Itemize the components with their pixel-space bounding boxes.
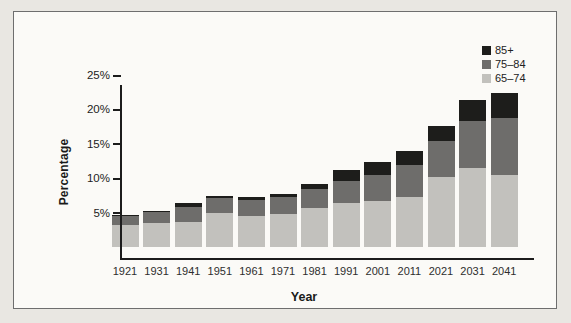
bar-2041-segment-85plus — [491, 93, 518, 118]
y-tick-10 — [113, 178, 121, 180]
bar-2021-segment-85plus — [428, 126, 455, 141]
x-tick-label-1931: 1931 — [140, 265, 174, 277]
scanned-page: 85+75–8465–74 19211931194119511961197119… — [0, 0, 571, 323]
bar-1961-segment-75-84 — [238, 200, 265, 216]
legend-swatch-icon — [482, 46, 491, 55]
bar-2031-segment-65-74 — [459, 168, 486, 247]
bar-1921-segment-85plus — [112, 215, 139, 216]
x-tick-label-2031: 2031 — [456, 265, 490, 277]
x-tick-label-1981: 1981 — [298, 265, 332, 277]
x-tick-label-2021: 2021 — [424, 265, 458, 277]
bar-1991-segment-85plus — [333, 170, 360, 181]
bar-2021-segment-75-84 — [428, 141, 455, 177]
bar-1961-segment-85plus — [238, 197, 265, 200]
bar-1991-segment-65-74 — [333, 203, 360, 248]
x-axis-title: Year — [259, 290, 349, 304]
legend-swatch-icon — [482, 60, 491, 69]
y-tick-label-15: 15% — [66, 138, 110, 151]
bar-1951-segment-75-84 — [206, 198, 233, 213]
bar-1981-segment-75-84 — [301, 189, 328, 208]
bar-1941-segment-75-84 — [175, 207, 202, 222]
legend: 85+75–8465–74 — [482, 44, 526, 86]
legend-item-75-84: 75–84 — [482, 58, 526, 71]
legend-swatch-icon — [482, 74, 491, 83]
bar-1921-segment-75-84 — [112, 216, 139, 225]
y-tick-25 — [113, 75, 121, 77]
bar-1941-segment-65-74 — [175, 222, 202, 247]
y-tick-label-25: 25% — [66, 69, 110, 82]
bar-2041-segment-75-84 — [491, 118, 518, 175]
bar-2011-segment-75-84 — [396, 165, 423, 197]
y-tick-15 — [113, 143, 121, 145]
x-tick-label-2011: 2011 — [392, 265, 426, 277]
bar-1971-segment-65-74 — [270, 214, 297, 248]
bar-2031-segment-75-84 — [459, 121, 486, 168]
x-tick-label-1921: 1921 — [108, 265, 142, 277]
y-tick-5 — [113, 212, 121, 214]
legend-item-85plus: 85+ — [482, 44, 526, 57]
x-axis-line — [120, 258, 534, 261]
bar-1951-segment-65-74 — [206, 213, 233, 247]
bar-1981-segment-85plus — [301, 184, 328, 190]
bar-1931-segment-85plus — [143, 211, 170, 212]
bar-2011-segment-65-74 — [396, 197, 423, 248]
bar-1931-segment-65-74 — [143, 223, 170, 248]
bar-1941-segment-85plus — [175, 203, 202, 206]
y-tick-label-5: 5% — [66, 207, 110, 220]
x-tick-label-2001: 2001 — [361, 265, 395, 277]
figure-box: 85+75–8465–74 19211931194119511961197119… — [13, 11, 557, 309]
bar-2011-segment-85plus — [396, 151, 423, 165]
bar-1921-segment-65-74 — [112, 225, 139, 248]
y-axis-line — [120, 85, 122, 259]
bar-2001-segment-65-74 — [364, 201, 391, 247]
bar-2021-segment-65-74 — [428, 177, 455, 247]
x-tick-label-2041: 2041 — [487, 265, 521, 277]
bar-1971-segment-75-84 — [270, 197, 297, 214]
x-tick-label-1971: 1971 — [266, 265, 300, 277]
bar-1971-segment-85plus — [270, 194, 297, 197]
x-tick-label-1961: 1961 — [234, 265, 268, 277]
legend-item-65-74: 65–74 — [482, 72, 526, 85]
bar-1961-segment-65-74 — [238, 216, 265, 248]
bar-2031-segment-85plus — [459, 100, 486, 121]
bar-2001-segment-85plus — [364, 162, 391, 175]
y-tick-20 — [113, 109, 121, 111]
bar-2041-segment-65-74 — [491, 175, 518, 247]
bar-2001-segment-75-84 — [364, 175, 391, 201]
legend-label: 65–74 — [495, 73, 526, 84]
y-tick-label-20: 20% — [66, 103, 110, 116]
bar-1951-segment-85plus — [206, 196, 233, 198]
x-tick-label-1991: 1991 — [329, 265, 363, 277]
x-tick-label-1951: 1951 — [203, 265, 237, 277]
y-tick-label-10: 10% — [66, 172, 110, 185]
bar-1981-segment-65-74 — [301, 208, 328, 247]
x-tick-label-1941: 1941 — [171, 265, 205, 277]
legend-label: 75–84 — [495, 59, 526, 70]
bar-1931-segment-75-84 — [143, 212, 170, 222]
legend-label: 85+ — [495, 45, 514, 56]
bar-1991-segment-75-84 — [333, 181, 360, 202]
